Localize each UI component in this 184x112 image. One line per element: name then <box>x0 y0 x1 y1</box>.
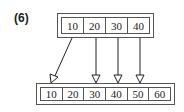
arrowhead-icon <box>92 75 100 83</box>
child-key: 10 <box>41 88 63 100</box>
child-key: 30 <box>84 88 106 100</box>
arrowhead-icon <box>136 75 144 83</box>
child-key: 50 <box>128 88 150 100</box>
child-key: 60 <box>149 88 170 100</box>
arrowhead-icon <box>50 74 58 83</box>
child-key: 20 <box>63 88 85 100</box>
child-key: 40 <box>106 88 128 100</box>
arrowhead-icon <box>114 75 122 83</box>
child-node: 10 20 30 40 50 60 <box>36 83 175 105</box>
